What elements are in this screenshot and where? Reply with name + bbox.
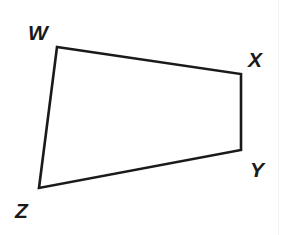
vertex-label-z: Z <box>14 199 29 222</box>
quadrilateral-diagram: W X Y Z <box>0 0 282 235</box>
scan-edge-line <box>278 0 279 235</box>
vertex-label-x: X <box>247 48 264 71</box>
quadrilateral-wxyz <box>39 47 241 188</box>
vertex-label-y: Y <box>250 158 266 181</box>
vertex-label-w: W <box>28 21 50 44</box>
